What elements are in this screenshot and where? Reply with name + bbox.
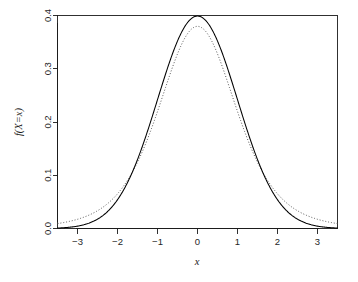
x-axis-tick-label: −3	[72, 236, 83, 247]
y-axis-tick-label: 0.3	[42, 62, 53, 75]
x-axis-tick-label: 3	[315, 236, 320, 247]
x-axis-tick-label: −2	[112, 236, 123, 247]
y-axis-tick-label: 0.4	[42, 9, 53, 22]
x-axis-tick-label: 1	[235, 236, 240, 247]
y-axis-title: f(X=x)	[13, 107, 25, 136]
y-axis-tick-label: 0.2	[42, 115, 53, 128]
figure-background	[0, 0, 358, 282]
x-axis-tick-label: 0	[195, 236, 200, 247]
x-axis-tick-label: −1	[152, 236, 163, 247]
plot-canvas: 0.00.10.20.30.4 −3−2−10123 f(X=x) x	[0, 0, 358, 282]
y-axis-tick-label: 0.1	[42, 169, 53, 182]
x-axis-title: x	[194, 256, 200, 267]
x-axis-tick-label: 2	[275, 236, 280, 247]
y-axis-tick-label: 0.0	[42, 222, 53, 235]
density-plot-figure: 0.00.10.20.30.4 −3−2−10123 f(X=x) x	[0, 0, 358, 282]
